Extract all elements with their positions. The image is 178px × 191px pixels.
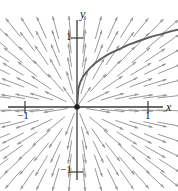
direction-field-segment [120, 170, 133, 190]
direction-field-segment [5, 171, 21, 189]
direction-field-segment [31, 119, 53, 130]
direction-field-segment [146, 171, 163, 187]
direction-field-segment [46, 117, 65, 132]
direction-field-segment [120, 18, 133, 38]
direction-field-segment [159, 159, 178, 172]
direction-field-segment [18, 62, 37, 77]
direction-field-segment [17, 132, 37, 145]
direction-field-segment [35, 45, 48, 65]
direction-field-segment [105, 143, 120, 162]
direction-field-segment [17, 78, 39, 89]
direction-field-arrows [0, 16, 178, 191]
direction-field-segment [116, 78, 138, 89]
direction-field-segment [101, 93, 124, 100]
origin-point-marker [74, 104, 80, 110]
direction-field-segment [30, 93, 53, 100]
direction-field-segment [45, 91, 67, 102]
direction-field-segment [0, 171, 8, 187]
direction-field-segment [160, 172, 178, 187]
direction-field-segment [65, 113, 74, 135]
direction-field-segment [131, 63, 152, 75]
direction-field-segment [102, 119, 124, 130]
plot-canvas [0, 0, 178, 191]
direction-field-segment [93, 141, 103, 162]
direction-field-segment [32, 76, 52, 89]
x-axis-label: x [166, 101, 171, 113]
direction-field-segment [133, 18, 148, 36]
direction-field-segment [49, 128, 62, 148]
direction-field-segment [21, 18, 34, 38]
direction-field-segment [117, 62, 136, 77]
direction-field-segment [6, 18, 21, 36]
direction-field-segment [35, 156, 47, 176]
y-tick-label-positive-one: 1 [66, 31, 72, 42]
direction-field-segment [77, 87, 90, 107]
direction-field-segment [89, 117, 108, 132]
direction-field-segment [88, 91, 110, 102]
direction-field-segment [133, 171, 149, 189]
direction-field-segment [67, 72, 74, 95]
direction-field-segment [50, 59, 62, 80]
direction-field-segment [80, 113, 89, 135]
x-tick-label-negative-one: −1 [17, 110, 29, 121]
direction-field-segment [51, 141, 61, 162]
direction-field-segment [0, 19, 7, 36]
direction-field-segment [145, 49, 165, 62]
direction-field-segment [0, 134, 10, 143]
direction-field-segment [3, 63, 24, 75]
direction-field-segment [117, 132, 137, 145]
y-axis-label: y [80, 8, 85, 20]
direction-field-segment [3, 145, 23, 159]
direction-field-segment [0, 64, 10, 75]
y-tick-label-negative-one: −1 [60, 164, 72, 175]
direction-field-segment [131, 145, 151, 159]
x-tick-label-positive-one: 1 [145, 110, 151, 121]
direction-field-segment [86, 109, 110, 113]
direction-field-segment [106, 156, 118, 176]
direction-field-segment [103, 76, 123, 89]
direction-field-figure: y x 1 −1 1 −1 [0, 0, 178, 191]
direction-field-segment [34, 143, 49, 162]
direction-field-segment [92, 128, 105, 148]
direction-field-segment [145, 146, 166, 158]
direction-field-segment [67, 127, 72, 150]
direction-field-segment [44, 109, 68, 113]
direction-field-segment [63, 87, 76, 107]
direction-field-segment [21, 170, 34, 190]
direction-field-segment [160, 35, 178, 49]
direction-field-segment [81, 127, 86, 150]
